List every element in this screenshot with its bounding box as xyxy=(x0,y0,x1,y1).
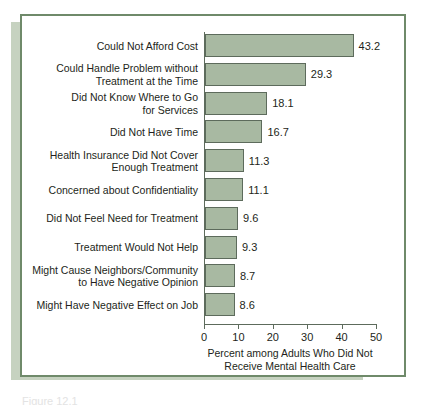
bar-row: Could Handle Problem without Treatment a… xyxy=(22,63,404,86)
bar xyxy=(205,120,262,143)
figure-caption-partial: Figure 12.1 xyxy=(22,396,78,405)
category-label: Treatment Would Not Help xyxy=(22,241,204,254)
bar-row: Concerned about Confidentiality11.1 xyxy=(22,178,404,201)
bar xyxy=(205,236,237,259)
bar-row: Health Insurance Did Not Cover Enough Tr… xyxy=(22,149,404,172)
bar-value-label: 8.7 xyxy=(235,270,255,282)
x-axis-tick xyxy=(307,324,308,329)
bar xyxy=(205,92,267,115)
x-axis-tick xyxy=(376,324,377,329)
category-label: Might Cause Neighbors/Community to Have … xyxy=(22,263,204,288)
x-axis-tick-label: 10 xyxy=(225,331,251,343)
x-axis-line xyxy=(204,324,376,325)
bar-value-label: 43.2 xyxy=(354,40,380,52)
bar-row: Might Have Negative Effect on Job8.6 xyxy=(22,293,404,316)
bar-chart-plot: 01020304050Could Not Afford Cost43.2Coul… xyxy=(22,16,404,375)
bar xyxy=(205,207,238,230)
bar xyxy=(205,149,244,172)
x-axis-tick xyxy=(238,324,239,329)
bar-row: Did Not Feel Need for Treatment9.6 xyxy=(22,207,404,230)
x-axis-tick-label: 20 xyxy=(260,331,286,343)
x-axis-tick-label: 0 xyxy=(191,331,217,343)
bar-row: Might Cause Neighbors/Community to Have … xyxy=(22,264,404,287)
bar xyxy=(205,178,243,201)
category-label: Could Handle Problem without Treatment a… xyxy=(22,62,204,87)
figure-root: 01020304050Could Not Afford Cost43.2Coul… xyxy=(0,0,426,406)
bar-value-label: 9.6 xyxy=(238,212,258,224)
category-label: Concerned about Confidentiality xyxy=(22,183,204,196)
category-label: Did Not Know Where to Go for Services xyxy=(22,91,204,116)
x-axis-tick-label: 40 xyxy=(329,331,355,343)
bar-value-label: 11.1 xyxy=(243,184,269,196)
category-label: Health Insurance Did Not Cover Enough Tr… xyxy=(22,148,204,173)
x-axis-tick-label: 30 xyxy=(294,331,320,343)
bar-value-label: 9.3 xyxy=(237,241,257,253)
bar-row: Could Not Afford Cost43.2 xyxy=(22,34,404,57)
bar-row: Did Not Know Where to Go for Services18.… xyxy=(22,92,404,115)
category-label: Did Not Have Time xyxy=(22,126,204,139)
x-axis-tick xyxy=(342,324,343,329)
x-axis-tick xyxy=(273,324,274,329)
bar-value-label: 8.6 xyxy=(235,299,255,311)
x-axis-title: Percent among Adults Who Did Not Receive… xyxy=(204,347,376,373)
bar-value-label: 16.7 xyxy=(262,126,288,138)
bar-value-label: 29.3 xyxy=(306,68,332,80)
bar xyxy=(205,293,235,316)
category-label: Might Have Negative Effect on Job xyxy=(22,298,204,311)
bar-value-label: 11.3 xyxy=(244,155,270,167)
bar xyxy=(205,34,354,57)
category-label: Could Not Afford Cost xyxy=(22,39,204,52)
x-axis-tick-label: 50 xyxy=(363,331,389,343)
bar-row: Treatment Would Not Help9.3 xyxy=(22,236,404,259)
bar xyxy=(205,63,306,86)
bar xyxy=(205,264,235,287)
bar-value-label: 18.1 xyxy=(267,97,293,109)
chart-frame: 01020304050Could Not Afford Cost43.2Coul… xyxy=(20,14,406,377)
chart-frame-inner: 01020304050Could Not Afford Cost43.2Coul… xyxy=(22,16,404,375)
x-axis-tick xyxy=(204,324,205,329)
category-label: Did Not Feel Need for Treatment xyxy=(22,212,204,225)
bar-row: Did Not Have Time16.7 xyxy=(22,120,404,143)
